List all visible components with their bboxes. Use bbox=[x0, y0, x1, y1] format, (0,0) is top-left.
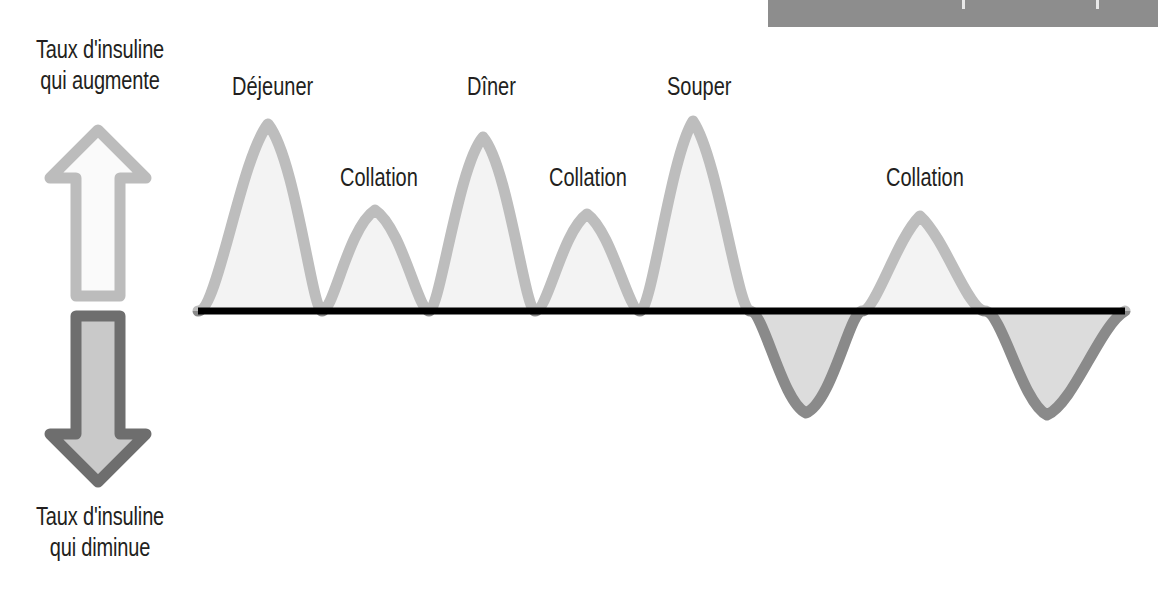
axis-caption-decrease-line1: Taux d'insuline bbox=[20, 501, 180, 532]
illustration-canvas: Taux d'insuline qui augmente Taux d'insu… bbox=[0, 0, 1158, 600]
axis-caption-increase-line2: qui augmente bbox=[20, 65, 180, 96]
label-souper: Souper bbox=[667, 72, 732, 100]
curve-negative-region bbox=[198, 121, 1125, 415]
top-banner-strip bbox=[768, 0, 1158, 27]
axis-caption-increase-line1: Taux d'insuline bbox=[20, 34, 180, 65]
curve-positive-region bbox=[198, 121, 1125, 415]
label-collation-2: Collation bbox=[549, 163, 627, 191]
banner-tick-1 bbox=[962, 0, 965, 9]
label-diner: Dîner bbox=[467, 72, 516, 100]
axis-caption-decrease-line2: qui diminue bbox=[20, 532, 180, 563]
label-dejeuner: Déjeuner bbox=[232, 72, 313, 100]
arrow-up-icon bbox=[42, 122, 154, 304]
label-collation-3: Collation bbox=[886, 163, 964, 191]
axis-caption-decrease: Taux d'insuline qui diminue bbox=[20, 501, 180, 563]
banner-tick-2 bbox=[1096, 0, 1099, 9]
axis-caption-increase: Taux d'insuline qui augmente bbox=[20, 34, 180, 96]
label-collation-1: Collation bbox=[340, 163, 418, 191]
arrow-down-icon bbox=[42, 308, 154, 490]
